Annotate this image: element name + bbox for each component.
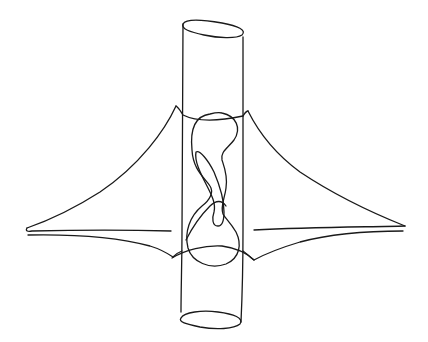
- knot-inner-strand: [196, 152, 224, 226]
- right-wing-lower-edge: [243, 231, 403, 260]
- sketch-svg: [0, 0, 428, 342]
- cylinder-right-edge: [241, 37, 243, 322]
- knot-outer-loop: [187, 113, 239, 266]
- right-wing-tip-fold: [254, 226, 405, 230]
- lower-band-arc: [172, 246, 254, 260]
- left-wing-tip-fold: [26, 228, 171, 231]
- knot-crossing-strand: [186, 202, 226, 241]
- cylinder: [180, 20, 243, 329]
- right-wing-peak-join: [243, 111, 248, 116]
- right-wing-upper-edge: [248, 111, 405, 226]
- left-wing-lower-edge: [28, 235, 182, 257]
- cylinder-left-edge: [181, 24, 183, 312]
- left-wing: [26, 106, 243, 257]
- diagram-canvas: Hand-drawn sketch of a vertical cylinder…: [0, 0, 428, 342]
- knot-curve: [186, 113, 239, 266]
- left-wing-upper-edge: [27, 106, 176, 228]
- cylinder-top-rim: [183, 20, 244, 38]
- cylinder-bottom-rim: [180, 311, 241, 328]
